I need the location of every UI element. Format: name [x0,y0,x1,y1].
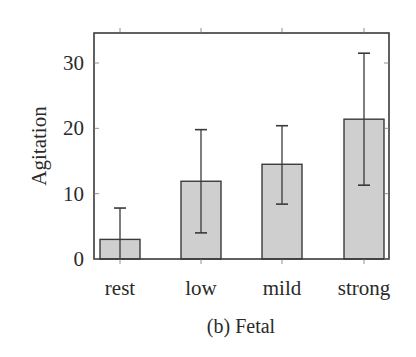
error-bars-group [114,53,370,259]
y-tick-label-20: 20 [63,116,84,140]
y-tick-label-30: 30 [63,51,84,75]
y-axis-label: Agitation [27,106,51,186]
y-axis-ticks: 0102030 [63,51,389,271]
x-tick-label-rest: rest [105,276,135,300]
bar-chart: 0102030 restlowmildstrong Agitation (b) … [0,0,416,357]
x-tick-label-low: low [185,276,217,300]
figure-caption: (b) Fetal [207,315,276,338]
x-tick-label-mild: mild [263,276,302,300]
y-tick-label-10: 10 [63,182,84,206]
bars-group [100,119,384,259]
y-tick-label-0: 0 [74,247,85,271]
x-tick-label-strong: strong [338,276,391,300]
